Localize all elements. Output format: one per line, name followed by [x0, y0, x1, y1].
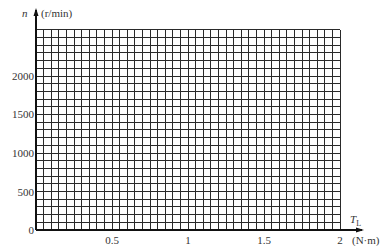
- y-axis-unit: (r/min): [41, 8, 72, 19]
- x-tick-label-1.5: 1.5: [249, 235, 279, 246]
- origin-label: 0: [0, 225, 34, 236]
- y-axis-symbol: n: [22, 8, 28, 19]
- chart-canvas: [0, 0, 392, 246]
- x-axis-symbol: TL: [350, 214, 361, 229]
- y-tick-label-2000: 2000: [0, 71, 34, 82]
- y-tick-label-500: 500: [0, 187, 34, 198]
- grid-lines: [36, 30, 340, 230]
- x-tick-label-0.5: 0.5: [97, 235, 127, 246]
- y-axis-arrow-icon: [34, 8, 39, 16]
- y-tick-label-1500: 1500: [0, 109, 34, 120]
- x-axis-subscript: L: [356, 219, 361, 228]
- y-tick-label-1000: 1000: [0, 148, 34, 159]
- x-tick-label-1: 1: [173, 235, 203, 246]
- x-axis-unit: (N·m): [352, 235, 380, 246]
- x-tick-label-2: 2: [325, 235, 355, 246]
